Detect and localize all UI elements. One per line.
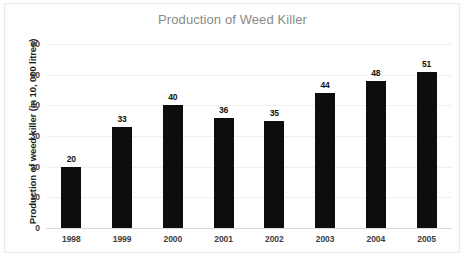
bar-value-label: 48 [371, 68, 380, 78]
x-axis-tick-label: 1998 [62, 234, 81, 244]
bar-group[interactable]: 442003 [315, 44, 335, 228]
y-axis-tick-label: 20 [31, 162, 40, 172]
x-axis-tick-label: 2004 [366, 234, 385, 244]
gridline [46, 167, 452, 168]
bar-value-label: 51 [422, 59, 431, 69]
bar-value-label: 36 [219, 105, 228, 115]
x-axis-tick-label: 2000 [163, 234, 182, 244]
bar-group[interactable]: 201998 [61, 44, 81, 228]
gridline [46, 136, 452, 137]
x-axis-tick-label: 2002 [265, 234, 284, 244]
bar[interactable] [163, 105, 183, 228]
bar-group[interactable]: 402000 [163, 44, 183, 228]
bar-value-label: 40 [168, 92, 177, 102]
bar-value-label: 44 [320, 80, 329, 90]
bar[interactable] [112, 127, 132, 228]
gridline [46, 44, 452, 45]
x-axis-tick-label: 2003 [316, 234, 335, 244]
bar-chart-figure: Production of Weed Killer Production of … [0, 0, 465, 258]
gridline [46, 105, 452, 106]
bar-value-label: 33 [117, 114, 126, 124]
y-axis-tick-label: 60 [31, 39, 40, 49]
bar-group[interactable]: 512005 [417, 44, 437, 228]
x-axis-tick-label: 2005 [417, 234, 436, 244]
gridline [46, 228, 452, 229]
bar-group[interactable]: 482004 [366, 44, 386, 228]
bar[interactable] [264, 121, 284, 228]
bar-value-label: 35 [270, 108, 279, 118]
bar[interactable] [214, 118, 234, 228]
bar-group[interactable]: 362001 [214, 44, 234, 228]
bar[interactable] [366, 81, 386, 228]
y-axis-tick-label: 10 [31, 192, 40, 202]
bar[interactable] [61, 167, 81, 228]
bar-group[interactable]: 352002 [264, 44, 284, 228]
x-axis-tick-label: 2001 [214, 234, 233, 244]
chart-title: Production of Weed Killer [0, 12, 465, 27]
y-axis-tick-label: 0 [35, 223, 40, 233]
bar[interactable] [315, 93, 335, 228]
bar[interactable] [417, 72, 437, 228]
plot-area: 0102030405060201998331999402000362001352… [46, 44, 452, 228]
gridline [46, 197, 452, 198]
x-axis-tick-label: 1999 [113, 234, 132, 244]
bar-value-label: 20 [67, 154, 76, 164]
gridline [46, 75, 452, 76]
y-axis-tick-label: 40 [31, 100, 40, 110]
y-axis-tick-label: 50 [31, 70, 40, 80]
bar-group[interactable]: 331999 [112, 44, 132, 228]
y-axis-tick-label: 30 [31, 131, 40, 141]
